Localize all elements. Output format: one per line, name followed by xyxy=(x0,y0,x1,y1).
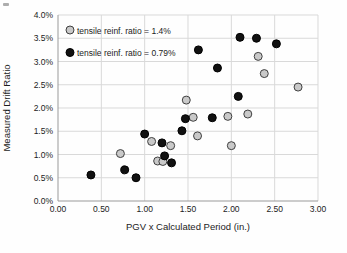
data-point-black xyxy=(168,159,176,167)
data-point-black xyxy=(208,114,216,122)
x-tick-label: 1.50 xyxy=(180,204,197,214)
y-tick-label: 1.5% xyxy=(34,126,54,136)
chart-container: 0.000.501.001.502.002.503.000.0%0.5%1.0%… xyxy=(0,0,347,253)
data-point-black xyxy=(194,46,202,54)
legend-marker-gray-icon xyxy=(66,26,74,34)
data-point-gray xyxy=(260,70,268,78)
y-tick-label: 3.5% xyxy=(34,33,54,43)
data-point-black xyxy=(132,174,140,182)
data-point-black xyxy=(181,115,189,123)
data-point-gray xyxy=(116,150,124,158)
legend-marker-black-icon xyxy=(66,49,74,57)
x-tick-label: 1.00 xyxy=(136,204,153,214)
data-point-black xyxy=(87,171,95,179)
data-point-gray xyxy=(294,83,302,91)
y-tick-label: 3.0% xyxy=(34,57,54,67)
y-tick-label: 0.0% xyxy=(34,196,54,206)
data-point-gray xyxy=(224,112,232,120)
data-point-black xyxy=(236,33,244,41)
legend-label-gray: tensile reinf. ratio = 1.4% xyxy=(77,26,171,36)
data-point-gray xyxy=(254,52,262,60)
y-tick-label: 2.5% xyxy=(34,80,54,90)
y-tick-label: 1.0% xyxy=(34,150,54,160)
data-point-black xyxy=(213,64,221,72)
data-point-gray xyxy=(244,110,252,118)
y-tick-label: 4.0% xyxy=(34,10,54,20)
data-point-gray xyxy=(227,142,235,150)
x-tick-label: 2.00 xyxy=(223,204,240,214)
data-point-black xyxy=(234,92,242,100)
data-point-gray xyxy=(194,132,202,140)
data-point-gray xyxy=(167,142,175,150)
data-point-gray xyxy=(148,137,156,145)
x-tick-label: 0.50 xyxy=(93,204,110,214)
tick-labels: 0.000.501.001.502.002.503.000.0%0.5%1.0%… xyxy=(34,10,327,214)
x-tick-label: 2.50 xyxy=(266,204,283,214)
data-point-black xyxy=(158,139,166,147)
data-point-black xyxy=(252,34,260,42)
data-point-black xyxy=(178,127,186,135)
data-point-gray xyxy=(189,113,197,121)
legend-label-black: tensile reinf. ratio = 0.79% xyxy=(77,48,176,58)
y-tick-label: 2.0% xyxy=(34,103,54,113)
scatter-chart: 0.000.501.001.502.002.503.000.0%0.5%1.0%… xyxy=(0,0,347,253)
data-point-black xyxy=(161,152,169,160)
y-tick-label: 0.5% xyxy=(34,173,54,183)
y-axis-title: Measured Drift Ratio xyxy=(1,64,12,151)
data-point-gray xyxy=(182,96,190,104)
data-point-black xyxy=(121,166,129,174)
data-point-black xyxy=(272,40,280,48)
data-point-black xyxy=(141,130,149,138)
legend: tensile reinf. ratio = 1.4% tensile rein… xyxy=(66,26,176,59)
x-axis-title: PGV x Calculated Period (in.) xyxy=(126,221,250,232)
x-tick-label: 3.00 xyxy=(310,204,327,214)
